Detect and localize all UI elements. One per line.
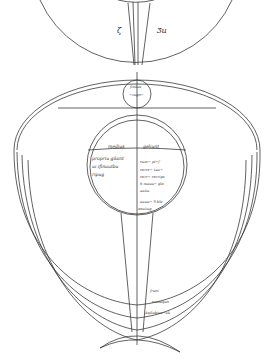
inner-left-line-1: propriu gilant	[92, 156, 124, 161]
inner-right-line-6: uuuu~ 9 bla	[140, 200, 162, 204]
inner-right-line-2: cerre~ tuu~	[140, 168, 163, 172]
inner-right-line-3: cerr~ cerrigs	[140, 175, 165, 179]
inner-bottom-word: aeuiiug	[138, 207, 152, 211]
inner-right-line-5: uuiiu	[140, 189, 150, 193]
inner-right-line-4: h nuiuu~ gla	[140, 182, 164, 186]
band-label-2: cuuiuquo	[152, 300, 170, 304]
inner-left-heading: medius	[108, 144, 125, 149]
top-right-letter: Ʒu	[156, 26, 167, 35]
small-circle-bottom-word: ~vugo~	[129, 93, 144, 97]
top-left-letter: ζ	[117, 26, 122, 35]
small-circle-top-word: finitus	[129, 85, 142, 89]
cosmological-diagram: ζ Ʒu finitus ~vugo~ medius geliunt propr…	[0, 0, 272, 364]
band-label-3: Aqilubiuu~uk	[144, 311, 170, 315]
inner-left-line-2: ui ifinuutbu	[92, 164, 119, 169]
inner-right-heading: geliunt	[143, 144, 159, 149]
inner-right-line-1: cum~ pi~f	[140, 160, 160, 164]
band-label-1: fruoi	[149, 289, 159, 293]
inner-left-line-3: ripug	[92, 172, 104, 177]
top-sphere: ζ Ʒu	[40, 0, 232, 65]
crescent	[100, 336, 180, 352]
